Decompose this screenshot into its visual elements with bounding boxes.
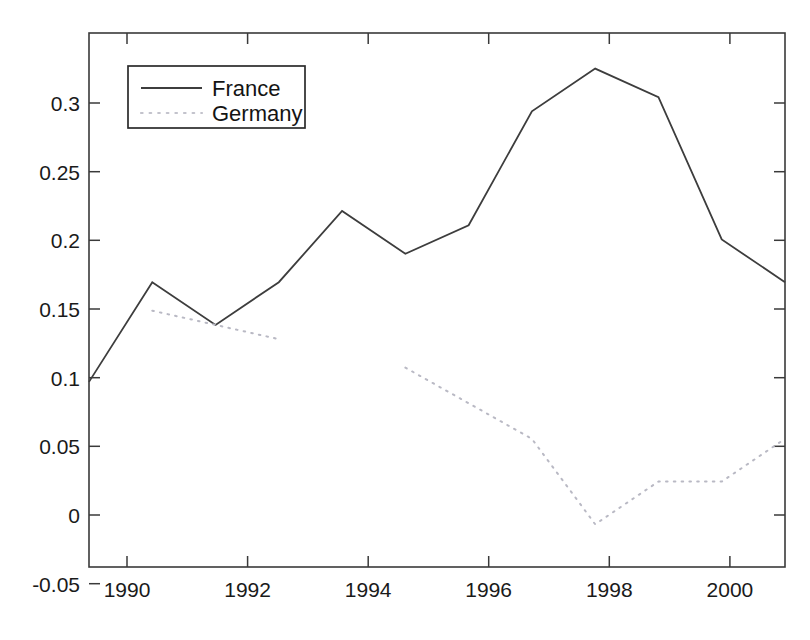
legend-label-france: France (212, 76, 280, 101)
data-series-layer (89, 69, 785, 525)
x-tick-label: 1992 (224, 578, 271, 601)
series-line-germany (152, 311, 279, 339)
x-tick-label: 1994 (345, 578, 392, 601)
y-tick-label: -0.05 (32, 573, 80, 596)
series-line-germany (405, 368, 785, 525)
y-tick-label: 0.05 (39, 435, 80, 458)
chart-legend: France Germany (128, 66, 305, 128)
line-chart-canvas: 0.3 0.25 0.2 0.15 0.1 0.05 0 -0.05 1 (0, 0, 810, 640)
y-tick-label: 0.15 (39, 298, 80, 321)
x-tick-label: 1996 (465, 578, 512, 601)
chart-figure: 0.3 0.25 0.2 0.15 0.1 0.05 0 -0.05 1 (0, 0, 810, 640)
legend-label-germany: Germany (212, 101, 302, 126)
y-tick-label: 0.25 (39, 161, 80, 184)
y-tick-label: 0.2 (51, 229, 80, 252)
y-tick-label: 0.3 (51, 92, 80, 115)
x-tick-label: 2000 (707, 578, 754, 601)
y-tick-label: 0.1 (51, 367, 80, 390)
x-tick-label: 1998 (586, 578, 633, 601)
y-tick-label: 0 (68, 504, 80, 527)
x-axis-tick-labels: 1990 1992 1994 1996 1998 2000 (104, 578, 754, 601)
y-axis-ticks (89, 103, 785, 584)
x-tick-label: 1990 (104, 578, 151, 601)
y-axis-tick-labels: 0.3 0.25 0.2 0.15 0.1 0.05 0 -0.05 (32, 92, 80, 596)
